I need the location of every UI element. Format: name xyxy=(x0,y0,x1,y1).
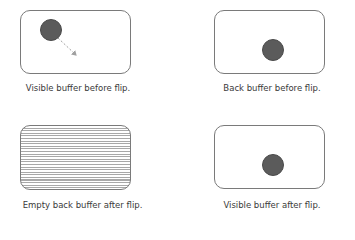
caption-back-before: Back buffer before flip. xyxy=(214,83,330,93)
caption-back-after: Empty back buffer after flip. xyxy=(20,200,145,210)
caption-visible-before: Visible buffer before flip. xyxy=(20,83,136,93)
empty-back-buffer-after-panel xyxy=(20,125,131,190)
ball-icon xyxy=(262,154,284,176)
ball-icon xyxy=(262,39,284,61)
caption-visible-after: Visible buffer after flip. xyxy=(214,200,330,210)
